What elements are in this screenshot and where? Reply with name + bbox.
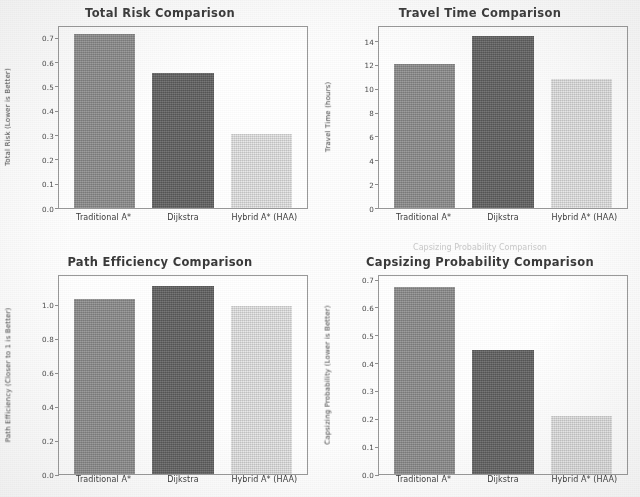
bar[interactable]: [551, 79, 612, 208]
bar-column: [472, 27, 533, 208]
bar[interactable]: [152, 286, 213, 474]
y-axis-ticks: 0.00.10.20.30.40.50.60.7: [0, 26, 58, 209]
y-axis-tick-label: 0.7: [42, 34, 54, 43]
y-axis-tick-label: 0.3: [362, 387, 374, 396]
y-axis-tick-label: 0.3: [42, 131, 54, 140]
bar-series: [59, 276, 307, 475]
y-axis-tick-label: 0.0: [42, 471, 54, 480]
y-axis-tick-label: 0.4: [362, 359, 374, 368]
bar-column: [74, 27, 135, 208]
bar[interactable]: [472, 350, 533, 474]
bar-series: [59, 27, 307, 208]
bar[interactable]: [152, 73, 213, 208]
y-axis-tick-label: 14: [364, 37, 374, 46]
y-axis-tick-label: 0.6: [362, 303, 374, 312]
bar-column: [231, 276, 292, 475]
x-axis-tick-label: Dijkstra: [472, 475, 534, 493]
y-axis-tick-label: 0.7: [362, 276, 374, 285]
y-axis-tick-label: 0.1: [42, 180, 54, 189]
subplot-path-efficiency: Path Efficiency Comparison Path Efficien…: [0, 249, 320, 497]
x-axis-tick-label: Traditional A*: [393, 475, 455, 493]
x-axis-ticks: Traditional A*DijkstraHybrid A* (HAA): [378, 475, 628, 493]
y-axis-ticks: 0.00.10.20.30.40.50.60.7: [320, 275, 378, 476]
y-axis-tick-label: 2: [369, 180, 374, 189]
y-axis-tick-label: 0.4: [42, 107, 54, 116]
subplot-capsizing-probability: Capsizing Probability Comparison Capsizi…: [320, 249, 640, 497]
subplot-total-risk: Total Risk Comparison Total Risk (Lower …: [0, 0, 320, 249]
y-axis-tick-label: 0.5: [42, 82, 54, 91]
x-axis-tick-label: Dijkstra: [472, 213, 534, 231]
bar-column: [152, 276, 213, 475]
bar-column: [472, 276, 533, 475]
bar-column: [231, 27, 292, 208]
bar[interactable]: [551, 416, 612, 474]
bar[interactable]: [74, 34, 135, 207]
y-axis-tick-label: 0.6: [42, 58, 54, 67]
bar-column: [551, 276, 612, 475]
bar[interactable]: [394, 64, 455, 208]
x-axis-tick-label: Hybrid A* (HAA): [551, 475, 613, 493]
y-axis-tick-label: 10: [364, 85, 374, 94]
plot-area: [58, 26, 308, 209]
subplot-title: Total Risk Comparison: [0, 6, 320, 20]
bar-column: [74, 276, 135, 475]
x-axis-tick-label: Traditional A*: [393, 213, 455, 231]
y-axis-tick-label: 4: [369, 156, 374, 165]
x-axis-ticks: Traditional A*DijkstraHybrid A* (HAA): [58, 213, 308, 231]
bar[interactable]: [394, 287, 455, 474]
y-axis-tick-label: 0.1: [362, 443, 374, 452]
x-axis-tick-label: Dijkstra: [152, 475, 214, 493]
y-axis-tick-label: 12: [364, 61, 374, 70]
y-axis-tick-label: 0.4: [42, 403, 54, 412]
y-axis-tick-label: 0.8: [42, 335, 54, 344]
y-axis-ticks: 0.00.20.40.60.81.0: [0, 275, 58, 476]
y-axis-tick-label: 0.5: [362, 331, 374, 340]
y-axis-tick-label: 0: [369, 204, 374, 213]
subplot-title: Path Efficiency Comparison: [0, 255, 320, 269]
x-axis-tick-label: Hybrid A* (HAA): [231, 213, 293, 231]
bar[interactable]: [231, 306, 292, 474]
figure-grid: Total Risk Comparison Total Risk (Lower …: [0, 0, 640, 497]
x-axis-ticks: Traditional A*DijkstraHybrid A* (HAA): [378, 213, 628, 231]
bar-series: [379, 27, 627, 208]
y-axis-tick-label: 0.2: [42, 155, 54, 164]
y-axis-tick-label: 0.2: [362, 415, 374, 424]
bar-column: [394, 27, 455, 208]
plot-area: [58, 275, 308, 476]
bar[interactable]: [74, 299, 135, 474]
y-axis-tick-label: 0.0: [362, 471, 374, 480]
plot-area: [378, 275, 628, 476]
bar[interactable]: [231, 134, 292, 207]
y-axis-tick-label: 0.2: [42, 437, 54, 446]
y-axis-tick-label: 6: [369, 132, 374, 141]
y-axis-tick-label: 0.0: [42, 204, 54, 213]
subplot-title: Capsizing Probability Comparison: [320, 255, 640, 269]
subplot-travel-time: Travel Time Comparison Travel Time (hour…: [320, 0, 640, 249]
plot-area: [378, 26, 628, 209]
subplot-title: Travel Time Comparison: [320, 6, 640, 20]
x-axis-tick-label: Hybrid A* (HAA): [551, 213, 613, 231]
bar[interactable]: [472, 36, 533, 207]
bar-column: [551, 27, 612, 208]
y-axis-tick-label: 8: [369, 109, 374, 118]
x-axis-tick-label: Traditional A*: [73, 213, 135, 231]
x-axis-tick-label: Dijkstra: [152, 213, 214, 231]
bar-series: [379, 276, 627, 475]
y-axis-tick-label: 1.0: [42, 301, 54, 310]
x-axis-tick-label: Traditional A*: [73, 475, 135, 493]
x-axis-tick-label: Hybrid A* (HAA): [231, 475, 293, 493]
y-axis-tick-label: 0.6: [42, 369, 54, 378]
y-axis-ticks: 02468101214: [320, 26, 378, 209]
x-axis-ticks: Traditional A*DijkstraHybrid A* (HAA): [58, 475, 308, 493]
bar-column: [394, 276, 455, 475]
bar-column: [152, 27, 213, 208]
